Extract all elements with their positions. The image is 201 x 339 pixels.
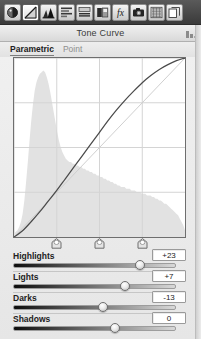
hsl-color-icon[interactable] <box>40 4 57 21</box>
effects-icon[interactable]: fx <box>112 4 129 21</box>
darks-value[interactable]: -13 <box>152 291 186 303</box>
tone-curve-icon[interactable] <box>22 4 39 21</box>
slider-row-shadows: Shadows 0 <box>13 313 188 334</box>
tone-curve-plot-area[interactable] <box>13 57 186 238</box>
lens-corrections-icon[interactable] <box>94 4 111 21</box>
slider-row-darks: Darks -13 <box>13 292 188 313</box>
highlights-value[interactable]: +23 <box>152 249 186 261</box>
presets-icon[interactable] <box>148 4 165 21</box>
tone-curve-svg <box>14 58 185 237</box>
page-title: Tone Curve <box>76 28 124 38</box>
shadows-value[interactable]: 0 <box>152 312 186 324</box>
highlights-split-marker[interactable] <box>137 238 148 249</box>
tone-curve-graph[interactable] <box>13 57 186 238</box>
panel-toolbar: fx <box>0 0 201 25</box>
split-marker-row <box>13 238 186 249</box>
basic-panel-icon[interactable] <box>4 4 21 21</box>
panel-scroll-rail[interactable] <box>195 25 201 339</box>
tab-parametric[interactable]: Parametric <box>10 44 54 56</box>
lights-knob[interactable] <box>120 281 130 291</box>
darks-track[interactable] <box>13 305 176 310</box>
parametric-sliders: Highlights +23 Lights +7 Darks -13 Shado… <box>13 250 188 334</box>
highlights-label: Highlights <box>13 251 55 261</box>
shadows-label: Shadows <box>13 314 50 324</box>
lights-label: Lights <box>13 272 39 282</box>
darks-knob[interactable] <box>98 302 108 312</box>
svg-text:fx: fx <box>117 8 125 18</box>
curve-mode-tabs: Parametric Point <box>0 42 201 57</box>
slider-row-highlights: Highlights +23 <box>13 250 188 271</box>
snapshots-icon[interactable] <box>166 4 183 21</box>
shadows-knob[interactable] <box>110 323 120 333</box>
highlights-knob[interactable] <box>135 260 145 270</box>
darks-label: Darks <box>13 293 37 303</box>
lights-value[interactable]: +7 <box>152 270 186 282</box>
slider-row-lights: Lights +7 <box>13 271 188 292</box>
tone-curve-panel: fx Tone Curve <box>0 0 201 339</box>
tab-point[interactable]: Point <box>63 44 82 55</box>
highlights-track[interactable] <box>13 263 176 268</box>
camera-calibration-icon[interactable] <box>130 4 147 21</box>
shadows-track[interactable] <box>13 326 176 331</box>
detail-icon[interactable] <box>76 4 93 21</box>
split-toning-icon[interactable] <box>58 4 75 21</box>
shadows-split-marker[interactable] <box>51 238 62 249</box>
lights-track[interactable] <box>13 284 176 289</box>
panel-header: Tone Curve <box>0 25 201 42</box>
midtones-split-marker[interactable] <box>94 238 105 249</box>
